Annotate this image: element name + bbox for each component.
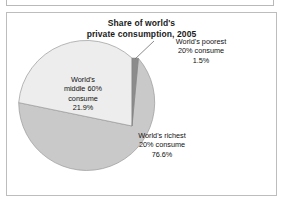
pie-label-poorest-line-1: World's poorest <box>160 37 242 46</box>
pie-label-richest-value: 76.6% <box>115 150 209 159</box>
pie-label-middle-line-3: consume <box>47 94 119 103</box>
pie-label-middle: World's middle 60% consume 21.9% <box>47 75 119 113</box>
pie-label-richest: World's richest 20% consume 76.6% <box>115 131 209 159</box>
chart-figure-frame: Share of world's private consumption, 20… <box>6 12 277 196</box>
leader-line-poorest <box>135 41 154 59</box>
pie-label-middle-value: 21.9% <box>47 103 119 112</box>
pie-label-poorest-value: 1.5% <box>160 56 242 65</box>
pie-label-richest-line-1: World's richest <box>115 131 209 140</box>
pie-label-middle-line-1: World's <box>47 75 119 84</box>
pie-label-poorest-line-2: 20% consume <box>160 46 242 55</box>
pie-label-richest-line-2: 20% consume <box>115 140 209 149</box>
pie-label-middle-line-2: middle 60% <box>47 84 119 93</box>
clipped-box-above <box>6 0 274 6</box>
pie-label-poorest: World's poorest 20% consume 1.5% <box>160 37 242 65</box>
